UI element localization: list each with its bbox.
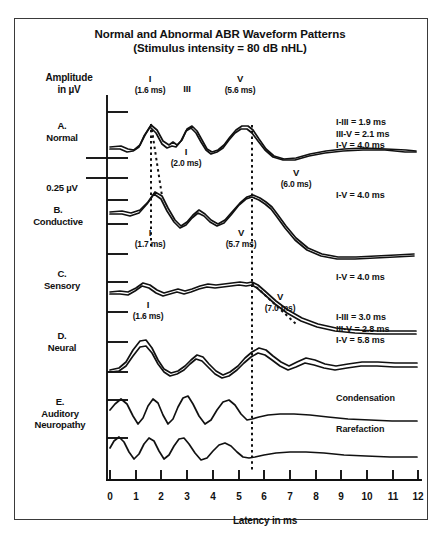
x-tick-label: 9 (338, 491, 344, 502)
y-calibration-bar (86, 158, 107, 178)
trace-neural (110, 340, 417, 378)
trace-auditory-neuropathy-rarefaction (110, 437, 417, 460)
y-axis-ticks (107, 112, 128, 438)
x-tick-label: 8 (313, 491, 319, 502)
x-tick-label: 6 (261, 491, 267, 502)
abr-waveform-figure: Normal and Abnormal ABR Waveform Pattern… (0, 0, 441, 546)
x-tick-label: 12 (412, 491, 424, 502)
x-tick-label: 10 (361, 491, 373, 502)
x-tick-label: 1 (133, 491, 139, 502)
x-tick-label: 0 (107, 491, 113, 502)
x-tick-label: 2 (158, 491, 164, 502)
x-axis-tick-labels: 0 1 2 3 4 5 6 7 8 9 10 11 12 (107, 491, 424, 502)
plot-canvas: 0 1 2 3 4 5 6 7 8 9 10 11 12 (0, 0, 441, 546)
trace-normal (110, 125, 416, 160)
x-tick-label: 4 (210, 491, 216, 502)
trace-sensory (110, 282, 416, 334)
x-tick-label: 5 (236, 491, 242, 502)
x-tick-label: 11 (388, 491, 399, 502)
x-tick-label: 7 (287, 491, 293, 502)
x-tick-label: 3 (184, 491, 190, 502)
trace-conductive (110, 192, 414, 259)
trace-auditory-neuropathy-condensation (110, 396, 417, 424)
x-axis-ticks (110, 470, 418, 480)
